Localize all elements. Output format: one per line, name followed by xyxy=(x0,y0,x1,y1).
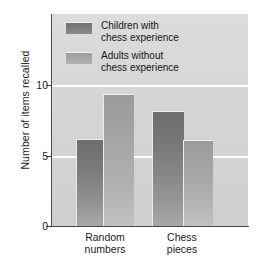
legend-label-children-line2: chess experience xyxy=(101,32,179,44)
plot-area: Children with chess experience Adults wi… xyxy=(52,14,248,226)
y-tick-label-0: 0 xyxy=(24,220,48,232)
legend-item-adults: Adults without chess experience xyxy=(66,50,246,73)
y-axis-line xyxy=(51,14,52,227)
x-tick-label-random-numbers-line2: numbers xyxy=(65,243,145,255)
bar-adults-random-numbers xyxy=(103,94,134,226)
legend-label-children-line1: Children with xyxy=(101,20,179,32)
legend-swatch-children-icon xyxy=(66,22,92,34)
legend-swatch-adults-icon xyxy=(66,52,92,64)
legend-label-adults-line1: Adults without xyxy=(101,50,179,62)
bar-children-random-numbers xyxy=(76,139,104,226)
x-tick-label-chess-pieces: Chess pieces xyxy=(142,231,222,255)
gridline-10 xyxy=(52,85,248,87)
x-tick-label-chess-pieces-line1: Chess xyxy=(142,231,222,243)
legend-label-adults-line2: chess experience xyxy=(101,62,179,74)
legend-label-children: Children with chess experience xyxy=(101,20,179,43)
legend-label-adults: Adults without chess experience xyxy=(101,50,179,73)
y-tick-label-10: 10 xyxy=(24,79,48,91)
y-axis-ticks: 0 5 10 xyxy=(20,0,48,264)
bar-adults-chess-pieces xyxy=(183,140,213,226)
x-tick-label-random-numbers-line1: Random xyxy=(65,231,145,243)
bar-children-chess-pieces xyxy=(152,111,184,226)
legend-item-children: Children with chess experience xyxy=(66,20,246,43)
x-tick-label-random-numbers: Random numbers xyxy=(65,231,145,255)
y-tick-label-5: 5 xyxy=(24,150,48,162)
x-tick-label-chess-pieces-line2: pieces xyxy=(142,243,222,255)
bar-chart-figure: Number of items recalled 0 5 10 Children… xyxy=(0,0,256,264)
chart-legend: Children with chess experience Adults wi… xyxy=(66,20,246,80)
x-axis-line xyxy=(51,226,249,227)
